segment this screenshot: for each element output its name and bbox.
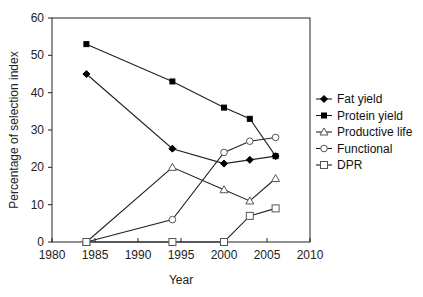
x-tick-label: 2010: [297, 248, 324, 262]
x-tick-label: 1995: [168, 248, 195, 262]
legend-item: Productive life: [316, 125, 413, 139]
data-point: [168, 163, 176, 170]
data-point: [83, 239, 90, 246]
legend-label: DPR: [337, 158, 363, 172]
legend-label: Productive life: [337, 125, 413, 139]
legend-marker: [321, 162, 328, 169]
data-point: [169, 216, 176, 223]
data-point: [221, 149, 228, 156]
data-point: [246, 156, 253, 163]
legend: Fat yieldProtein yieldProductive lifeFun…: [316, 92, 413, 172]
x-tick-label: 1990: [125, 248, 152, 262]
data-point: [247, 116, 252, 121]
legend-item: Protein yield: [316, 109, 403, 123]
legend-item: Fat yield: [316, 92, 382, 106]
legend-item: Functional: [316, 142, 392, 156]
legend-label: Functional: [337, 142, 392, 156]
legend-marker: [322, 113, 327, 118]
data-point: [247, 138, 254, 145]
data-point: [273, 154, 278, 159]
data-point: [220, 186, 228, 193]
line-chart: 1980198519901995200020052010010203040506…: [0, 0, 423, 297]
y-tick-label: 60: [31, 11, 45, 25]
data-point: [272, 175, 280, 182]
x-tick-label: 2000: [211, 248, 238, 262]
y-tick-label: 0: [37, 235, 44, 249]
legend-label: Fat yield: [337, 92, 382, 106]
data-point: [272, 205, 279, 212]
y-tick-label: 10: [31, 198, 45, 212]
series-line: [86, 167, 275, 242]
data-point: [221, 160, 228, 167]
legend-marker: [321, 96, 328, 103]
x-tick-label: 2005: [254, 248, 281, 262]
y-tick-label: 20: [31, 160, 45, 174]
legend-marker: [321, 145, 328, 152]
data-point: [169, 239, 176, 246]
x-axis-label: Year: [169, 273, 193, 287]
x-tick-label: 1985: [82, 248, 109, 262]
x-tick-label: 1980: [39, 248, 66, 262]
y-tick-label: 30: [31, 123, 45, 137]
data-point: [170, 79, 175, 84]
data-point: [84, 42, 89, 47]
data-point: [272, 134, 279, 141]
data-point: [246, 212, 253, 219]
data-point: [221, 239, 228, 246]
data-point: [222, 105, 227, 110]
series-line: [86, 137, 275, 242]
y-axis-label: Percentage of selection index: [7, 51, 21, 208]
legend-item: DPR: [316, 158, 363, 172]
y-tick-label: 40: [31, 86, 45, 100]
y-tick-label: 50: [31, 48, 45, 62]
legend-label: Protein yield: [337, 109, 403, 123]
series-productive-life: [82, 163, 279, 245]
